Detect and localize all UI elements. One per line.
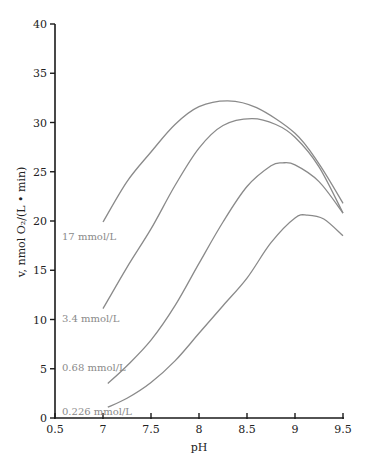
y-tick-label: 25 bbox=[33, 166, 47, 179]
y-tick-label: 5 bbox=[40, 363, 47, 376]
data-curves bbox=[103, 101, 343, 407]
y-tick-label: 30 bbox=[33, 117, 47, 130]
x-tick-label: 9.5 bbox=[334, 423, 352, 436]
y-tick-label: 35 bbox=[33, 67, 47, 80]
series-label-0-68-mmol: 0.68 mmol/L bbox=[62, 362, 126, 373]
series-label-3-4-mmol: 3.4 mmol/L bbox=[62, 313, 120, 324]
ph-rate-chart: 0510152025303540 0.577.588.599.5 17 mmol… bbox=[0, 0, 368, 475]
x-axis-title: pH bbox=[191, 441, 208, 454]
y-tick-label: 10 bbox=[33, 314, 47, 327]
y-axis-title: v, nmol O₂/(L • min) bbox=[15, 167, 28, 279]
y-tick-label: 20 bbox=[33, 215, 47, 228]
curve-0-226-mmol-l bbox=[108, 215, 343, 407]
series-label-0-226-mmol: 0.226 mmol/L bbox=[62, 406, 132, 417]
curve-0-68-mmol-l bbox=[108, 163, 343, 384]
axes bbox=[54, 24, 344, 418]
y-tick-label: 40 bbox=[33, 18, 47, 31]
x-tick-label: 9 bbox=[292, 423, 299, 436]
y-tick-label: 15 bbox=[33, 264, 47, 277]
x-tick-label: 7 bbox=[100, 423, 107, 436]
x-tick-label: 7.5 bbox=[142, 423, 160, 436]
series-label-17-mmol: 17 mmol/L bbox=[62, 231, 116, 242]
x-tick-label: 8.5 bbox=[238, 423, 256, 436]
series-labels: 17 mmol/L 3.4 mmol/L 0.68 mmol/L 0.226 m… bbox=[62, 231, 132, 417]
curve-17-mmol-l bbox=[103, 101, 343, 222]
y-axis-ticks: 0510152025303540 bbox=[33, 18, 55, 425]
x-tick-label: 0.5 bbox=[46, 423, 64, 436]
x-tick-label: 8 bbox=[196, 423, 203, 436]
